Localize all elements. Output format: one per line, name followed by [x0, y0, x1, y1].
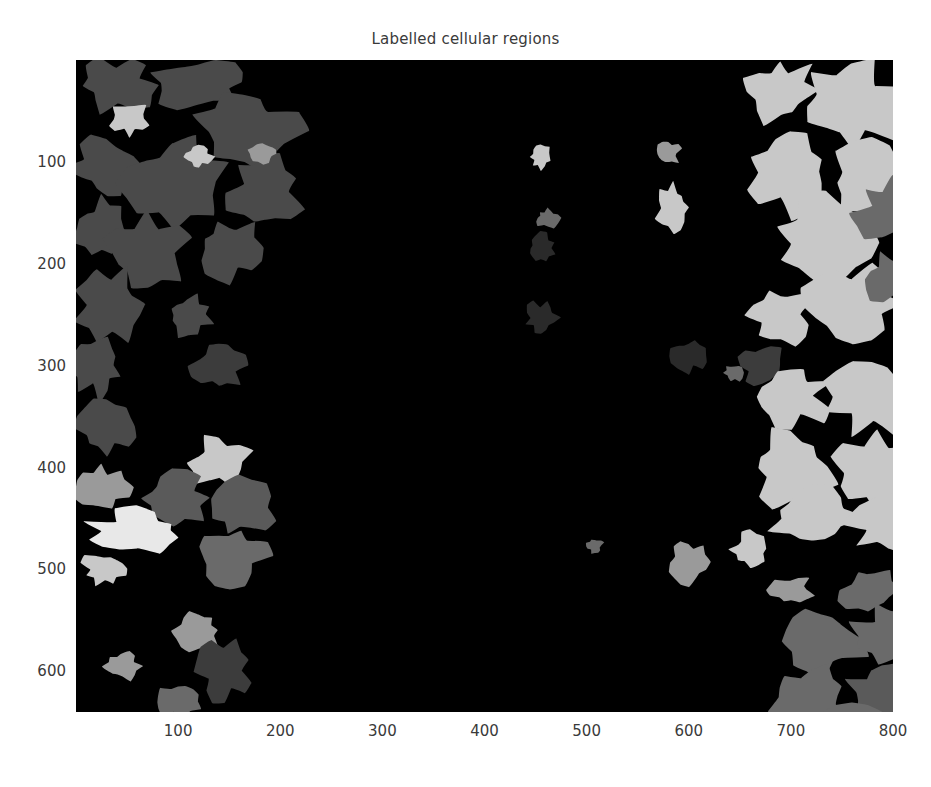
labelled-region: [849, 600, 893, 669]
labelled-region: [76, 398, 136, 456]
labelled-region: [728, 529, 766, 568]
x-tick-label: 300: [368, 722, 397, 740]
labelled-region: [80, 555, 127, 586]
labelled-region: [199, 531, 273, 590]
labelled-region: [157, 686, 201, 712]
labelled-regions-image: [76, 60, 893, 712]
labelled-region: [76, 464, 134, 509]
labelled-region: [525, 301, 561, 334]
labelled-region: [115, 135, 229, 230]
labelled-region: [188, 344, 249, 386]
x-tick-label: 200: [266, 722, 295, 740]
y-tick-label: 500: [14, 560, 66, 578]
labelled-region: [807, 60, 893, 150]
labelled-region: [536, 208, 561, 229]
labelled-region: [657, 142, 682, 164]
x-tick-label: 700: [777, 722, 806, 740]
labelled-region: [172, 294, 214, 338]
labelled-region: [76, 337, 120, 404]
y-tick-label: 100: [14, 153, 66, 171]
labelled-region: [194, 639, 252, 704]
labelled-region: [840, 493, 893, 554]
y-tick-label: 200: [14, 255, 66, 273]
labelled-region: [837, 570, 893, 611]
figure-container: Labelled cellular regions 10020030040050…: [0, 0, 931, 787]
x-tick-label: 800: [879, 722, 908, 740]
labelled-region: [823, 361, 893, 437]
x-axis-tick-labels: 100200300400500600700800: [76, 716, 893, 756]
labelled-region: [109, 105, 149, 138]
labelled-region: [211, 475, 276, 534]
x-tick-label: 500: [572, 722, 601, 740]
labelled-region: [655, 181, 689, 234]
labelled-region: [744, 290, 809, 346]
labelled-region: [669, 541, 711, 587]
labelled-region: [201, 222, 263, 286]
labelled-region: [669, 340, 706, 375]
labelled-region: [530, 231, 555, 261]
x-tick-label: 100: [164, 722, 193, 740]
y-tick-label: 300: [14, 357, 66, 375]
image-plot-area: [76, 60, 893, 712]
y-axis-tick-labels: 100200300400500600: [0, 60, 66, 712]
page-title: Labelled cellular regions: [0, 30, 931, 48]
labelled-region: [723, 366, 744, 382]
labelled-region: [83, 60, 159, 115]
labelled-region: [768, 664, 842, 712]
y-tick-label: 600: [14, 662, 66, 680]
x-tick-label: 400: [470, 722, 499, 740]
labelled-region: [586, 540, 604, 554]
labelled-region: [102, 651, 143, 681]
y-tick-label: 400: [14, 459, 66, 477]
labelled-region: [530, 144, 551, 170]
x-tick-label: 600: [674, 722, 703, 740]
labelled-region: [766, 578, 815, 603]
